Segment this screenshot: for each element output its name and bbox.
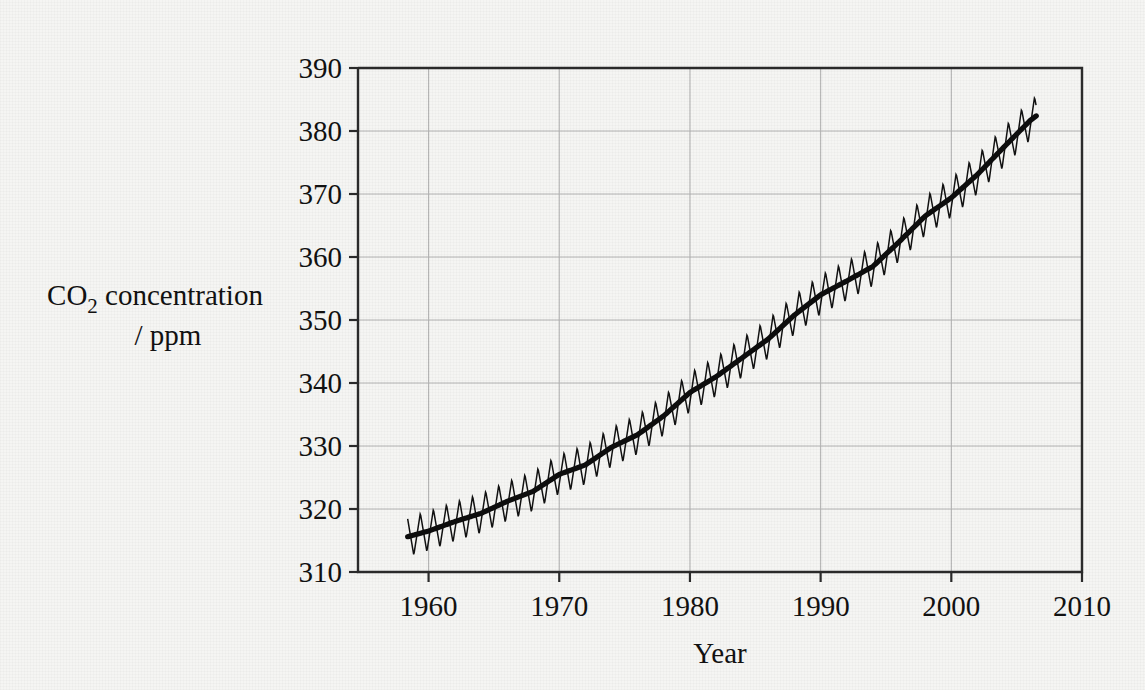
x-axis-title: Year <box>693 637 747 669</box>
subscript-two: 2 <box>87 294 98 318</box>
series-smoothed-trend <box>408 116 1037 537</box>
chart-figure: 3103203303403503603703803901960197019801… <box>0 0 1145 690</box>
x-tick-label: 2010 <box>1053 590 1111 622</box>
y-tick-label: 390 <box>299 52 343 84</box>
y-axis-title-line2: / ppm <box>135 319 202 351</box>
y-tick-label: 370 <box>299 178 343 210</box>
x-tick-label: 1960 <box>400 590 458 622</box>
x-tick-label: 2000 <box>922 590 980 622</box>
y-tick-label: 330 <box>299 430 343 462</box>
co2-concentration-line-chart: 3103203303403503603703803901960197019801… <box>0 0 1145 690</box>
series-seasonal-monthly-co2 <box>408 98 1036 554</box>
y-tick-label: 320 <box>299 493 343 525</box>
y-tick-label: 360 <box>299 241 343 273</box>
x-tick-label: 1980 <box>661 590 719 622</box>
y-tick-label: 310 <box>299 556 343 588</box>
y-tick-label: 380 <box>299 115 343 147</box>
y-tick-label: 350 <box>299 304 343 336</box>
y-axis-title-line1: CO2 concentration <box>47 279 263 318</box>
x-tick-label: 1990 <box>792 590 850 622</box>
x-tick-label: 1970 <box>530 590 588 622</box>
y-tick-label: 340 <box>299 367 343 399</box>
